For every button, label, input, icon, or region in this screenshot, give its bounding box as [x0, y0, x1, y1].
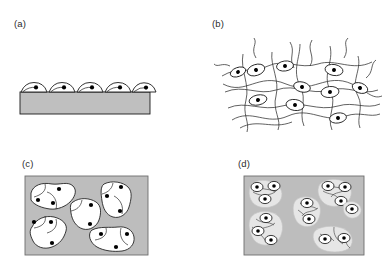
round-cell [260, 213, 272, 222]
cell-cluster [249, 180, 282, 207]
round-cell [251, 182, 263, 191]
round-cell [252, 226, 264, 235]
round-cell [319, 234, 331, 243]
round-cell [303, 214, 315, 223]
round-cell [339, 182, 351, 191]
cell-cluster [293, 197, 320, 227]
cell-cluster [343, 202, 361, 219]
round-cell [259, 194, 271, 203]
round-cell [301, 198, 313, 207]
round-cell [268, 181, 280, 190]
panel-d-artwork [0, 0, 392, 277]
round-cell [338, 233, 350, 242]
round-cell [322, 181, 334, 190]
round-cell [265, 235, 277, 244]
figure-canvas: (a) [0, 0, 392, 277]
round-cell [346, 204, 358, 213]
cell-cluster [249, 211, 282, 245]
